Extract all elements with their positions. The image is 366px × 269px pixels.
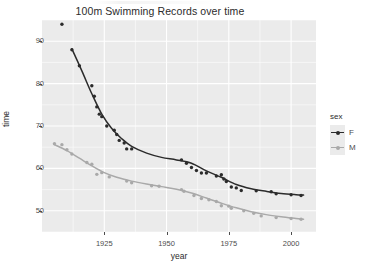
data-point-M <box>65 148 68 151</box>
data-point-M <box>60 143 63 146</box>
legend-key-icon <box>330 125 345 140</box>
data-point-F <box>274 192 277 195</box>
data-point-M <box>100 171 103 174</box>
data-point-M <box>95 173 98 176</box>
data-point-M <box>108 175 111 178</box>
data-point-M <box>85 161 88 164</box>
data-point-M <box>274 216 277 219</box>
data-point-M <box>230 207 233 210</box>
data-point-F <box>185 162 188 165</box>
data-point-F <box>115 133 118 136</box>
data-point-M <box>242 209 245 212</box>
x-tick-mark <box>167 232 168 235</box>
data-point-F <box>190 166 193 169</box>
x-axis-label: year <box>42 251 316 261</box>
data-point-M <box>299 218 302 221</box>
data-point-F <box>125 147 128 150</box>
data-point-M <box>90 162 93 165</box>
data-point-F <box>255 189 258 192</box>
data-point-F <box>93 95 96 98</box>
plot-panel <box>42 20 316 232</box>
legend-item-M[interactable]: M <box>330 140 366 155</box>
data-point-F <box>222 177 225 180</box>
data-point-F <box>100 115 103 118</box>
data-point-F <box>225 180 228 183</box>
legend-entries: FM <box>330 125 366 155</box>
x-tick-label: 1975 <box>209 239 249 248</box>
x-tick-label: 1950 <box>147 239 187 248</box>
data-layer <box>42 20 316 232</box>
data-point-F <box>195 169 198 172</box>
x-tick-mark <box>104 232 105 235</box>
data-point-M <box>53 142 56 145</box>
data-point-M <box>220 204 223 207</box>
data-point-F <box>118 139 121 142</box>
legend-label: M <box>349 143 356 152</box>
data-point-F <box>240 189 243 192</box>
trend-line-M <box>54 145 303 220</box>
data-point-F <box>180 158 183 161</box>
data-point-M <box>215 200 218 203</box>
data-point-F <box>269 190 272 193</box>
data-point-M <box>150 184 153 187</box>
data-point-M <box>200 197 203 200</box>
y-tick-label: 50 <box>4 206 44 215</box>
data-point-M <box>289 217 292 220</box>
data-point-F <box>299 194 302 197</box>
y-axis-label: time <box>1 99 11 139</box>
data-point-M <box>207 198 210 201</box>
data-point-M <box>157 185 160 188</box>
x-tick-label: 2000 <box>271 239 311 248</box>
data-point-F <box>113 129 116 132</box>
y-tick-label: 60 <box>4 163 44 172</box>
data-point-F <box>220 173 223 176</box>
legend-title: sex <box>330 112 366 121</box>
legend: sex FM <box>330 112 366 155</box>
data-point-F <box>215 174 218 177</box>
data-point-F <box>235 186 238 189</box>
data-point-F <box>90 84 93 87</box>
legend-key-icon <box>330 140 345 155</box>
data-point-M <box>252 212 255 215</box>
data-point-F <box>78 64 81 67</box>
data-point-F <box>130 147 133 150</box>
chart-figure: 100m Swimming Records over time 50607080… <box>0 0 366 269</box>
x-tick-label: 1925 <box>84 239 124 248</box>
data-point-F <box>123 141 126 144</box>
data-point-F <box>95 105 98 108</box>
data-point-M <box>182 190 185 193</box>
y-tick-label: 90 <box>4 36 44 45</box>
data-point-F <box>105 124 108 127</box>
data-point-M <box>260 214 263 217</box>
data-point-M <box>130 181 133 184</box>
data-point-F <box>289 193 292 196</box>
data-point-M <box>70 152 73 155</box>
legend-item-F[interactable]: F <box>330 125 366 140</box>
x-tick-mark <box>291 232 292 235</box>
chart-title: 100m Swimming Records over time <box>0 5 320 17</box>
data-point-F <box>230 185 233 188</box>
legend-label: F <box>349 128 354 137</box>
data-point-F <box>205 171 208 174</box>
data-point-F <box>60 23 63 26</box>
top-edge-artifact <box>96 1 216 4</box>
data-point-F <box>98 112 101 115</box>
y-tick-label: 80 <box>4 79 44 88</box>
data-point-F <box>70 48 73 51</box>
data-point-M <box>125 179 128 182</box>
data-point-M <box>192 194 195 197</box>
data-point-F <box>200 171 203 174</box>
x-tick-mark <box>229 232 230 235</box>
